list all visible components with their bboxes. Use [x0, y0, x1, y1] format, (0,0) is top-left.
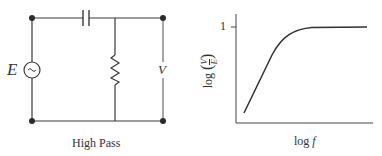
x-axis-label-prefix: log: [294, 134, 309, 148]
source-label: E: [7, 60, 17, 80]
x-axis-label: log f: [294, 134, 316, 149]
circuit-caption: High Pass: [72, 136, 120, 151]
figure-canvas: [0, 0, 382, 156]
output-voltage-label: V: [158, 62, 166, 78]
terminal-dot-bottom-right: [160, 118, 166, 124]
response-curve: [244, 27, 367, 113]
sine-wave-icon: [28, 69, 36, 72]
terminal-dots: [29, 15, 166, 124]
resistor-icon: [111, 55, 119, 85]
y-axis-label-prefix: log: [201, 73, 215, 88]
response-chart: [231, 14, 373, 123]
y-axis-label-denominator: E: [210, 59, 219, 65]
x-axis-label-var: f: [312, 134, 315, 148]
y-tick-label-1: 1: [220, 19, 226, 34]
terminal-dot-top-right: [160, 15, 166, 21]
terminal-dot-bottom-left: [29, 118, 35, 124]
y-axis-label: log ( V E ): [198, 41, 214, 101]
circuit-diagram: [24, 10, 163, 121]
terminal-dot-top-left: [29, 15, 35, 21]
